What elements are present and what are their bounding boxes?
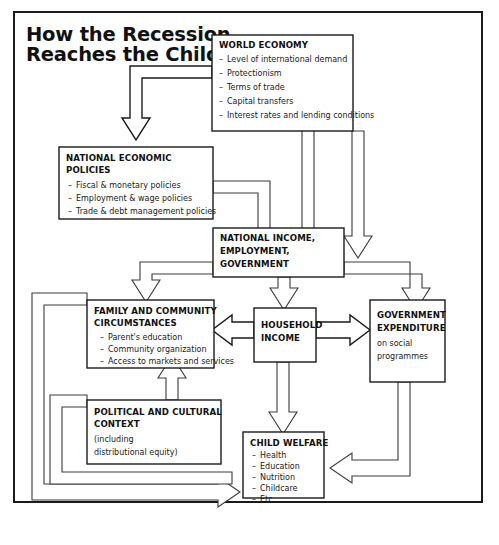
national-policies-heading-2: POLICIES (66, 165, 111, 175)
connector-household-to-family (212, 315, 254, 345)
government-heading-2: EXPENDITURE (377, 323, 446, 333)
national-policies-item-2: –Trade & debt management policies (68, 207, 216, 216)
national-income-heading-1: NATIONAL INCOME, (220, 233, 315, 243)
child-welfare-item-4: –Etc. (252, 495, 275, 504)
family-item-2: –Access to markets and services (100, 357, 234, 366)
family-heading-2: CIRCUMSTANCES (94, 318, 177, 328)
family-item-1: –Community organization (100, 345, 207, 354)
child-welfare-heading: CHILD WELFARE (250, 438, 328, 448)
world-economy-item-2: –Terms of trade (219, 83, 285, 92)
family-item-0: –Parent's education (100, 333, 182, 342)
household-heading-2: INCOME (261, 333, 300, 343)
child-welfare-item-1: –Education (252, 462, 300, 471)
family-heading-1: FAMILY AND COMMUNITY (94, 306, 217, 316)
government-sub-1: on social (377, 339, 412, 348)
national-policies-item-0: –Fiscal & monetary policies (68, 181, 181, 190)
title-line-2: Reaches the Child (26, 43, 220, 66)
diagram-page: How the Recession Reaches the Child WORL… (0, 0, 499, 545)
world-economy-item-4: –Interest rates and lending conditions (219, 111, 374, 120)
connector-household-to-child-welfare (269, 362, 297, 434)
world-economy-heading: WORLD ECONOMY (219, 40, 309, 50)
government-heading-1: GOVERNMENT (377, 310, 446, 320)
connector-national-income-to-family (132, 262, 213, 302)
connector-government-to-child-welfare (330, 382, 410, 483)
world-economy-item-3: –Capital transfers (219, 97, 293, 106)
national-income-heading-2: EMPLOYMENT, (220, 246, 290, 256)
box-child-welfare: CHILD WELFARE –Health –Education –Nutrit… (243, 432, 328, 504)
connector-household-to-government (316, 315, 370, 345)
recession-flow-diagram: How the Recession Reaches the Child WORL… (0, 0, 499, 545)
world-economy-item-1: –Protectionism (219, 69, 282, 78)
connector-world-to-national-income-right (344, 131, 372, 258)
connector-world-to-policies (122, 66, 212, 140)
box-family-and-community: FAMILY AND COMMUNITY CIRCUMSTANCES –Pare… (87, 300, 234, 368)
household-heading-1: HOUSEHOLD (261, 320, 323, 330)
box-world-economy: WORLD ECONOMY –Level of international de… (212, 35, 374, 131)
box-national-income: NATIONAL INCOME, EMPLOYMENT, GOVERNMENT (213, 228, 344, 277)
box-national-economic-policies: NATIONAL ECONOMIC POLICIES –Fiscal & mon… (59, 147, 216, 219)
box-government-expenditure: GOVERNMENT EXPENDITURE on social program… (370, 300, 446, 382)
government-sub-2: programmes (377, 352, 428, 361)
world-economy-item-0: –Level of international demand (219, 55, 347, 64)
political-heading-1: POLITICAL AND CULTURAL (94, 407, 222, 417)
page-title: How the Recession Reaches the Child (26, 23, 231, 66)
box-household-income: HOUSEHOLD INCOME (254, 308, 323, 362)
national-policies-item-1: –Employment & wage policies (68, 194, 192, 203)
political-heading-2: CONTEXT (94, 419, 140, 429)
national-policies-heading-1: NATIONAL ECONOMIC (66, 153, 172, 163)
connector-national-income-to-household (270, 277, 298, 310)
political-sub-1: (including (94, 435, 134, 444)
national-income-heading-3: GOVERNMENT (220, 259, 289, 269)
box-political-and-cultural-context: POLITICAL AND CULTURAL CONTEXT (includin… (87, 400, 222, 464)
political-sub-2: distributional equity) (94, 448, 178, 457)
